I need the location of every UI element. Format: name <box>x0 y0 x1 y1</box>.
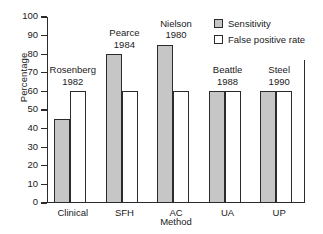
legend: SensitivityFalse positive rate <box>214 16 305 48</box>
y-axis-tick-label: 20 <box>14 158 38 171</box>
group-annotation: Rosenberg1982 <box>34 64 112 87</box>
annotation-author: Beattle <box>213 64 243 75</box>
bar-sensitivity <box>209 91 225 203</box>
group-annotation: Nielson1980 <box>137 18 215 41</box>
annotation-author: Steel <box>268 64 290 75</box>
bar-sensitivity <box>54 119 70 203</box>
x-axis-title: Method <box>47 216 305 227</box>
bar-false-positive-rate <box>122 91 138 203</box>
group-annotation: Steel1990 <box>240 64 318 87</box>
bar-chart: Percentage 1009080706050403020100 Rosenb… <box>0 0 323 234</box>
legend-label: False positive rate <box>228 34 305 45</box>
y-axis-tick-label: 90 <box>14 28 38 41</box>
annotation-year: 1982 <box>34 76 112 88</box>
bar-false-positive-rate <box>225 91 241 203</box>
legend-label: Sensitivity <box>228 18 271 29</box>
y-axis-tick-label: 30 <box>14 140 38 153</box>
bar-false-positive-rate <box>70 91 86 203</box>
y-axis-tick-label: 80 <box>14 47 38 60</box>
y-axis-tick-label: 50 <box>14 102 38 115</box>
legend-item: False positive rate <box>214 32 305 46</box>
y-axis-tick-label: 100 <box>14 9 38 22</box>
bar-false-positive-rate <box>173 91 189 203</box>
y-axis-tick-label: 40 <box>14 121 38 134</box>
legend-swatch-icon <box>214 19 223 28</box>
annotation-author: Rosenberg <box>50 64 96 75</box>
annotation-year: 1980 <box>137 29 215 41</box>
legend-swatch-icon <box>214 35 223 44</box>
bar-sensitivity <box>157 45 173 203</box>
legend-item: Sensitivity <box>214 16 305 30</box>
bar-sensitivity <box>260 91 276 203</box>
y-axis-tick-label: 10 <box>14 177 38 190</box>
annotation-year: 1990 <box>240 76 318 88</box>
annotation-author: Nielson <box>160 18 192 29</box>
bar-false-positive-rate <box>276 91 292 203</box>
annotation-author: Pearce <box>109 27 139 38</box>
